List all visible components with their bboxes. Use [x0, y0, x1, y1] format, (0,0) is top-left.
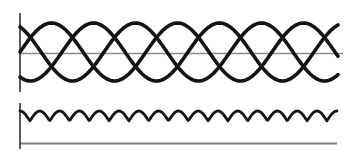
ripple-curve	[20, 111, 337, 121]
phase-curve-1	[20, 23, 338, 81]
waveform-figure	[0, 0, 352, 155]
figure-container	[0, 0, 352, 155]
